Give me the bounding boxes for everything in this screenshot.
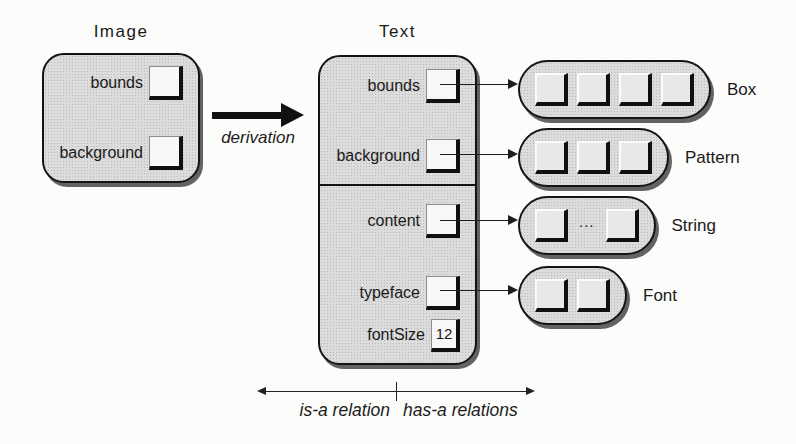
slot-label: bounds: [91, 74, 144, 92]
element-slot-box: [577, 73, 610, 106]
box-instance-row: Box: [518, 60, 756, 119]
slot-row-content: content: [368, 203, 460, 239]
ref-arrow-typeface-to-font: [440, 290, 508, 291]
slot-label: typeface: [360, 284, 420, 302]
font-instance-row: Font: [518, 266, 677, 325]
slot-row-background: background: [59, 135, 183, 171]
slot-label: background: [336, 147, 420, 165]
string-instance-row: ... String: [518, 196, 716, 255]
element-slot-box: [577, 279, 610, 312]
arrowhead-icon: [508, 285, 518, 295]
has-a-relations-label: has-a relations: [403, 400, 518, 421]
element-slot-box: [535, 141, 568, 174]
slot-label: bounds: [368, 77, 421, 95]
slot-label: background: [59, 144, 143, 162]
text-class-title: Text: [318, 22, 477, 42]
string-instance: ...: [518, 196, 656, 255]
slot-value-box: [426, 69, 460, 103]
derivation-arrow-head: [281, 103, 304, 127]
left-arrowhead-icon: [257, 387, 266, 395]
arrowhead-icon: [508, 149, 518, 159]
box-instance: [518, 60, 711, 119]
ref-arrow-content-to-string: [440, 220, 508, 221]
font-label: Font: [643, 286, 677, 306]
slot-value-box: [426, 204, 460, 238]
box-label: Box: [727, 80, 756, 100]
right-arrowhead-icon: [526, 387, 535, 395]
element-slot-box: [661, 73, 694, 106]
diagram-canvas: Image Text bounds background derivation …: [0, 0, 796, 444]
pattern-instance: [518, 128, 669, 187]
image-class-title: Image: [42, 22, 200, 42]
slot-row-bounds: bounds: [91, 65, 184, 101]
slot-label: fontSize: [367, 326, 425, 344]
slot-row-typeface: typeface: [360, 275, 460, 311]
ref-arrow-background-to-pattern: [440, 154, 508, 155]
slot-row-fontsize: fontSize 12: [367, 317, 460, 353]
element-slot-box: [606, 209, 639, 242]
slot-value-box: [149, 66, 183, 100]
slot-value-box: [149, 136, 183, 170]
slot-row-background: background: [336, 138, 460, 174]
element-slot-box: [535, 209, 568, 242]
slot-value-box: 12: [431, 319, 460, 352]
inherited-own-divider: [320, 184, 475, 186]
derivation-arrow-shaft: [212, 112, 286, 119]
ref-arrow-bounds-to-box: [440, 84, 508, 85]
arrowhead-icon: [508, 79, 518, 89]
pattern-instance-row: Pattern: [518, 128, 740, 187]
element-slot-box: [619, 141, 652, 174]
element-slot-box: [577, 141, 610, 174]
slot-value-box: [426, 276, 460, 310]
ellipsis: ...: [577, 213, 597, 238]
element-slot-box: [535, 279, 568, 312]
string-label: String: [672, 216, 716, 236]
element-slot-box: [619, 73, 652, 106]
font-instance: [518, 266, 627, 325]
element-slot-box: [535, 73, 568, 106]
is-a-relation-label: is-a relation: [240, 400, 390, 421]
slot-value-box: [426, 139, 460, 173]
arrowhead-icon: [508, 215, 518, 225]
text-class-box: bounds background content typeface fontS…: [318, 55, 477, 365]
derivation-label: derivation: [202, 128, 314, 148]
slot-label: content: [368, 212, 420, 230]
image-class-box: bounds background: [42, 53, 200, 183]
relation-divider-tick: [396, 382, 397, 401]
slot-row-bounds: bounds: [368, 68, 461, 104]
pattern-label: Pattern: [685, 148, 740, 168]
